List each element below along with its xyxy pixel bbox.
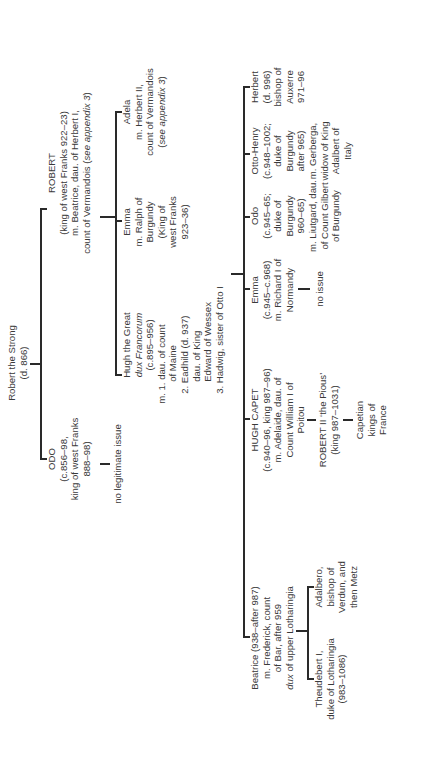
capetians-line-1: Capetian (354, 401, 366, 439)
herbert-line-5: 971–96 (295, 68, 307, 107)
odo2-line-6: m. Liutgard, dau. (307, 180, 319, 252)
root-name: Robert the Strong (6, 325, 18, 401)
connector-emma2-issue (298, 288, 310, 290)
node-theudebert: Theudebert I, duke of Lotharingia (983–1… (313, 638, 348, 720)
herbert-line-3: bishop of (272, 68, 284, 107)
odo-line-3: king of west Franks (69, 418, 81, 501)
theudebert-line-2: duke of Lotharingia (325, 638, 337, 720)
robert-ii-name: ROBERT II ‘the Pious’ (317, 373, 329, 468)
adalbero-line-2: bishop of (325, 561, 337, 613)
emma2-line-4: Normandy (284, 259, 296, 321)
theudebert-line-3: (983–1086) (336, 638, 348, 720)
node-hugh-capet: HUGH CAPET (c.940–96, king 987–96) m. Ad… (249, 368, 307, 471)
herbert-name: Herbert (249, 68, 261, 107)
odo2-line-3: duke of (272, 180, 284, 252)
emma1-line-3: Burgundy (144, 196, 156, 248)
hugh-great-m2: 2. Eadhild (d. 937) (179, 286, 191, 404)
robert-line-2: (king of west Franks 922–23) (58, 92, 70, 254)
odo2-name: Odo (249, 180, 261, 252)
hugh-great-m1b: of Maine (167, 286, 179, 404)
hugh-great-m3: 3. Hadwig, sister of Otto I (214, 286, 226, 404)
emma2-line-3: m. Richard I of (272, 259, 284, 321)
odo2-line-5: 960–65) (295, 180, 307, 252)
odo-line-4: 888–98) (81, 418, 93, 501)
emma2-issue: no issue (314, 271, 326, 307)
node-odo: ODO (c.856–98, king of west Franks 888–9… (46, 418, 92, 501)
node-robert: ROBERT (king of west Franks 922–23) m. B… (46, 92, 92, 254)
odo2-line-8: of Burgundy (330, 180, 342, 252)
robert-line-4: count of Vermandois (see appendix 3) (81, 92, 93, 254)
ottohenry-line-9: Italy (342, 121, 354, 180)
emma2-name: Emma (249, 259, 261, 321)
odo-issue-text: no legitimate issue (112, 424, 124, 503)
connector-robertii-capetians (343, 419, 353, 421)
robert-line-3: m. Beatrice, dau. of Herbert I, (69, 92, 81, 254)
adela-line-4: (see appendix 3) (156, 68, 168, 155)
hugh-great-name: Hugh the Great (121, 286, 133, 404)
ottohenry-line-7: widow of King (319, 121, 331, 180)
connector-hughcapet-robertii (307, 419, 316, 421)
ottohenry-line-2: (c.948–1002; (261, 121, 273, 180)
herbert-line-4: Auxerre (284, 68, 296, 107)
node-otto-henry: Otto-Henry (c.948–1002; duke of Burgundy… (249, 121, 353, 180)
adela-line-2: m. Herbert II, (133, 68, 145, 155)
beatrice-line-3: of Bar, after 959 (272, 586, 284, 689)
hugh-capet-name: HUGH CAPET (249, 368, 261, 471)
family-tree-diagram: Robert the Strong (d. 866) ODO (c.856–98… (0, 0, 437, 765)
odo2-line-4: Burgundy (284, 180, 296, 252)
ottohenry-line-8: Adalbert of (330, 121, 342, 180)
node-emma-normandy: Emma (c.945–c.968) m. Richard I of Norma… (249, 259, 295, 321)
node-capetians: Capetian kings of France (354, 401, 389, 439)
connector-robert-drop (100, 216, 116, 218)
beatrice-line-2: m. Frederick, count (261, 586, 273, 689)
node-emma-burgundy: Emma m. Ralph of Burgundy (King of west … (121, 196, 191, 248)
node-herbert: Herbert (d. 996) bishop of Auxerre 971–9… (249, 68, 307, 107)
hugh-great-title: dux Francorum (133, 286, 145, 404)
beatrice-line-4: dux of upper Lotharingia (284, 586, 296, 689)
robert-name: ROBERT (46, 92, 58, 254)
hugh-capet-line-2: (c.940–96, king 987–96) (261, 368, 273, 471)
odo2-line-7: of Count Gilbert (319, 180, 331, 252)
node-robert-the-strong: Robert the Strong (d. 866) (6, 325, 29, 401)
beatrice-name: Beatrice (938–after 987) (249, 586, 261, 689)
emma2-issue-text: no issue (314, 271, 326, 307)
ottohenry-line-5: after 965) (295, 121, 307, 180)
emma1-line-6: 923–36) (179, 196, 191, 248)
emma1-line-2: m. Ralph of (133, 196, 145, 248)
hugh-capet-line-3: m. Adelaide, dau. of (272, 368, 284, 471)
ottohenry-line-6: m. Gerberga, (307, 121, 319, 180)
emma1-line-4: (King of (156, 196, 168, 248)
ottohenry-line-4: Burgundy (284, 121, 296, 180)
odo-issue: no legitimate issue (112, 424, 124, 503)
emma1-line-5: west Franks (167, 196, 179, 248)
connector-gen3-bar (243, 86, 245, 638)
emma1-name: Emma (121, 196, 133, 248)
adalbero-line-3: Verdun, and (336, 561, 348, 613)
connector-gen2-bar (115, 111, 117, 376)
hugh-capet-line-4: Count William I of (284, 368, 296, 471)
ottohenry-name: Otto-Henry (249, 121, 261, 180)
connector-odo-issue (100, 463, 110, 465)
odo2-line-2: (c.945–65; (261, 180, 273, 252)
theudebert-name: Theudebert I, (313, 638, 325, 720)
node-hugh-the-great: Hugh the Great dux Francorum (c.895–956)… (121, 286, 225, 404)
node-adela: Adela m. Herbert II, count of Vermandois… (121, 68, 167, 155)
hugh-great-m2c: Edward of Wessex (202, 286, 214, 404)
adalbero-line-4: then Metz (348, 561, 360, 613)
ottohenry-line-3: duke of (272, 121, 284, 180)
hugh-great-m1: m. 1. dau. of count (156, 286, 168, 404)
herbert-line-2: (d. 996) (261, 68, 273, 107)
capetians-line-3: France (377, 401, 389, 439)
connector-beatrice-children-bar (307, 586, 309, 680)
root-dates: (d. 866) (18, 325, 30, 401)
hugh-great-dates: (c.895–956) (144, 286, 156, 404)
node-beatrice: Beatrice (938–after 987) m. Frederick, c… (249, 586, 295, 689)
odo-name: ODO (46, 418, 58, 501)
emma2-line-2: (c.945–c.968) (261, 259, 273, 321)
robert-ii-reign: (king 987–1031) (329, 373, 341, 468)
node-odo-burgundy: Odo (c.945–65; duke of Burgundy 960–65) … (249, 180, 342, 252)
adalbero-name: Adalbero, (313, 561, 325, 613)
adela-line-3: count of Vermandois (144, 68, 156, 155)
capetians-line-2: kings of (366, 401, 378, 439)
odo-line-2: (c.856–98, (58, 418, 70, 501)
